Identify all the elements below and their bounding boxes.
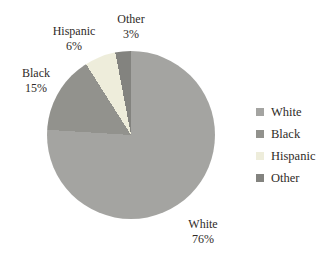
legend-label-other: Other — [271, 171, 299, 185]
legend-swatch-hispanic — [256, 152, 264, 160]
legend-item-black: Black — [256, 127, 315, 141]
legend-swatch-white — [256, 108, 264, 116]
slice-label-black-value: 15% — [22, 81, 50, 96]
legend-swatch-black — [256, 130, 264, 138]
legend-label-black: Black — [271, 127, 300, 141]
slice-label-white: White 76% — [188, 217, 217, 246]
slice-label-black: Black 15% — [22, 66, 50, 95]
legend-item-hispanic: Hispanic — [256, 149, 315, 163]
legend: White Black Hispanic Other — [256, 105, 315, 185]
legend-item-white: White — [256, 105, 315, 119]
legend-swatch-other — [256, 174, 264, 182]
slice-label-other: Other 3% — [117, 12, 144, 41]
legend-label-hispanic: Hispanic — [271, 149, 315, 163]
legend-label-white: White — [271, 105, 302, 119]
slice-label-white-value: 76% — [188, 232, 217, 247]
slice-label-other-value: 3% — [117, 27, 144, 42]
slice-label-hispanic-value: 6% — [53, 39, 96, 54]
slice-label-hispanic-name: Hispanic — [53, 24, 96, 39]
legend-item-other: Other — [256, 171, 315, 185]
pie-plot — [47, 51, 215, 219]
slice-label-black-name: Black — [22, 66, 50, 81]
slice-label-hispanic: Hispanic 6% — [53, 24, 96, 53]
slice-label-white-name: White — [188, 217, 217, 232]
slice-label-other-name: Other — [117, 12, 144, 27]
pie-chart-figure: White 76% Black 15% Hispanic 6% Other 3%… — [0, 0, 333, 255]
